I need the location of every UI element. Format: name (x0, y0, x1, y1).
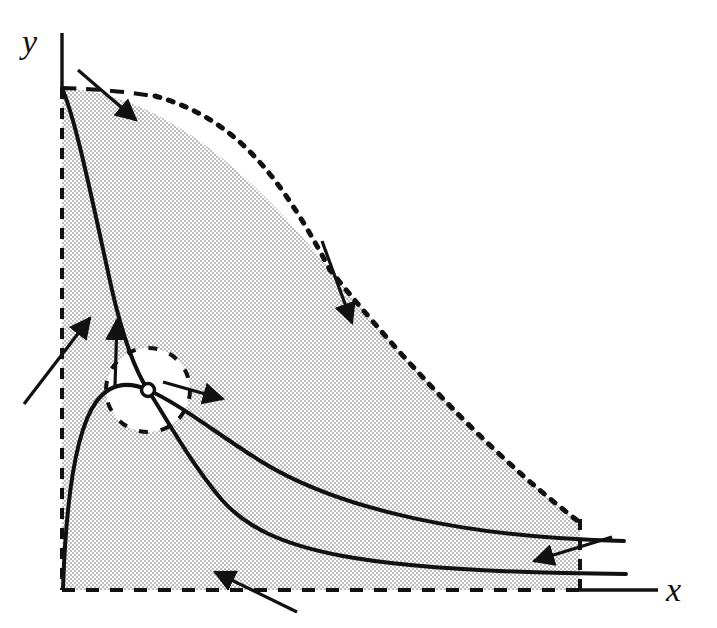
x-axis-label: x (665, 571, 681, 608)
equilibrium-point (142, 384, 155, 397)
phase-plane-diagram: y x (0, 0, 717, 628)
y-axis-label: y (19, 23, 38, 60)
figure-root: y x (0, 0, 717, 628)
flow-arrow-vertical (115, 320, 117, 386)
scan-artifact-text (350, 0, 354, 12)
shaded-trapping-region (50, 70, 610, 610)
